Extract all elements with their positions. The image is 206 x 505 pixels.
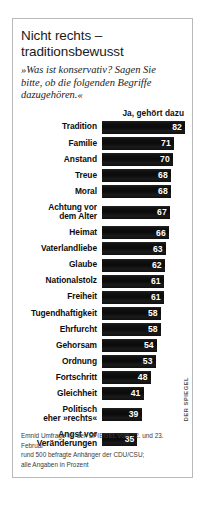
- page-title-line-1: Nicht rechts –: [21, 28, 185, 44]
- table-row: Vaterlandliebe63: [20, 242, 185, 255]
- table-row: Glaube62: [20, 259, 185, 272]
- bar-track: 71: [102, 137, 185, 150]
- bar-label: Ordnung: [20, 357, 102, 367]
- bar: 67: [102, 206, 170, 219]
- table-row: Ordnung53: [20, 355, 185, 368]
- bar: 61: [102, 275, 164, 288]
- column-header: Ja, gehört dazu: [20, 108, 185, 118]
- bar: 66: [102, 226, 169, 239]
- bar: 58: [102, 307, 161, 320]
- bar-label: Nationalstolz: [20, 276, 102, 286]
- bar: 70: [102, 153, 173, 166]
- bar-value: 48: [138, 373, 148, 382]
- bar-label-line: Vaterlandliebe: [20, 244, 97, 254]
- bar-label-line: Tradition: [20, 122, 97, 132]
- bar-value: 70: [160, 155, 170, 164]
- bar-label: Glaube: [20, 260, 102, 270]
- bar-track: 68: [102, 169, 185, 182]
- footnote: Emnid Umfrage für den SPIEGEL vom 22. un…: [21, 431, 185, 469]
- table-row: Gehorsam54: [20, 339, 185, 352]
- bar-value: 68: [158, 171, 168, 180]
- bar-value: 41: [131, 389, 141, 398]
- table-row: Tugendhaftigkeit58: [20, 307, 185, 320]
- bar: 58: [102, 323, 161, 336]
- bar-value: 58: [148, 325, 158, 334]
- bar-label: Moral: [20, 187, 102, 197]
- table-row: Familie71: [20, 137, 185, 150]
- table-row: Anstand70: [20, 153, 185, 166]
- bar-track: 48: [102, 371, 185, 384]
- bar-label-line: Heimat: [20, 228, 97, 238]
- table-row: Gleichheit41: [20, 387, 185, 400]
- bar-track: 66: [102, 226, 185, 239]
- bar-label: Fortschritt: [20, 373, 102, 383]
- footnote-line-1: Emnid Umfrage für den SPIEGEL vom 22. un…: [21, 431, 185, 450]
- bar-track: 58: [102, 323, 185, 336]
- bar-label-line: Ordnung: [20, 357, 97, 367]
- subtitle: »Was ist konservativ? Sagen Sie bitte, o…: [21, 64, 185, 102]
- table-row: Nationalstolz61: [20, 275, 185, 288]
- publisher-credit: DER SPIEGEL: [183, 377, 189, 421]
- bar-track: 61: [102, 275, 185, 288]
- bar: 48: [102, 371, 151, 384]
- bar-label: Vaterlandliebe: [20, 244, 102, 254]
- bar-label: Politischeher »rechts«: [20, 405, 102, 424]
- table-row: Treue68: [20, 169, 185, 182]
- bar-label-line: Freiheit: [20, 292, 97, 302]
- table-row: Achtung vordem Alter67: [20, 201, 185, 223]
- bar-label: Familie: [20, 139, 102, 149]
- bar: 68: [102, 169, 171, 182]
- bar-label-line: eher »rechts«: [20, 414, 97, 424]
- bar-label: Gleichheit: [20, 389, 102, 399]
- bar: 63: [102, 242, 166, 255]
- table-row: Heimat66: [20, 226, 185, 239]
- footnote-line-2: rund 500 befragte Anhänger der CDU/CSU;: [21, 450, 185, 459]
- bar-value: 68: [158, 187, 168, 196]
- bar-label: Freiheit: [20, 292, 102, 302]
- subtitle-line-2: bitte, ob die folgenden Begriffe: [21, 77, 185, 90]
- bar-label-line: Tugendhaftigkeit: [20, 309, 97, 319]
- bar-label: Tradition: [20, 122, 102, 132]
- bar-value: 61: [151, 277, 161, 286]
- bar-label-line: dem Alter: [20, 212, 97, 222]
- bar-value: 63: [153, 245, 163, 254]
- bar-label-line: Gleichheit: [20, 389, 97, 399]
- bar-value: 54: [144, 341, 154, 350]
- bar: 54: [102, 339, 157, 352]
- table-row: Ehrfurcht58: [20, 323, 185, 336]
- bar-value: 71: [161, 139, 171, 148]
- bar-track: 58: [102, 307, 185, 320]
- bar-track: 63: [102, 242, 185, 255]
- bar-track: 41: [102, 387, 185, 400]
- bar: 41: [102, 387, 144, 400]
- bar: 62: [102, 259, 165, 272]
- table-row: Tradition82: [20, 121, 185, 134]
- bar-track: 39: [102, 408, 185, 421]
- bar-label: Anstand: [20, 155, 102, 165]
- table-row: Fortschritt48: [20, 371, 185, 384]
- subtitle-line-3: dazugehören.«: [21, 89, 185, 102]
- bar-label-line: Moral: [20, 187, 97, 197]
- bar-label-line: Gehorsam: [20, 341, 97, 351]
- bar-label: Gehorsam: [20, 341, 102, 351]
- subtitle-line-1: »Was ist konservativ? Sagen Sie: [21, 64, 185, 77]
- bar-value: 61: [151, 293, 161, 302]
- bar-label: Tugendhaftigkeit: [20, 309, 102, 319]
- bar: 53: [102, 355, 156, 368]
- bar: 71: [102, 137, 174, 150]
- table-row: Moral68: [20, 185, 185, 198]
- bar-label-line: Nationalstolz: [20, 276, 97, 286]
- bar-label-line: Glaube: [20, 260, 97, 270]
- bar-label-line: Treue: [20, 171, 97, 181]
- page-title: Nicht rechts – traditionsbewusst: [21, 28, 185, 60]
- bar: 39: [102, 408, 142, 421]
- bar-value: 67: [157, 208, 167, 217]
- bar-value: 62: [152, 261, 162, 270]
- bar-label-line: Ehrfurcht: [20, 325, 97, 335]
- bar-label-line: Fortschritt: [20, 373, 97, 383]
- bar-track: 70: [102, 153, 185, 166]
- bar: 68: [102, 185, 171, 198]
- infographic-inner: Nicht rechts – traditionsbewusst »Was is…: [13, 19, 192, 477]
- table-row: Politischeher »rechts«39: [20, 403, 185, 425]
- bar-label: Heimat: [20, 228, 102, 238]
